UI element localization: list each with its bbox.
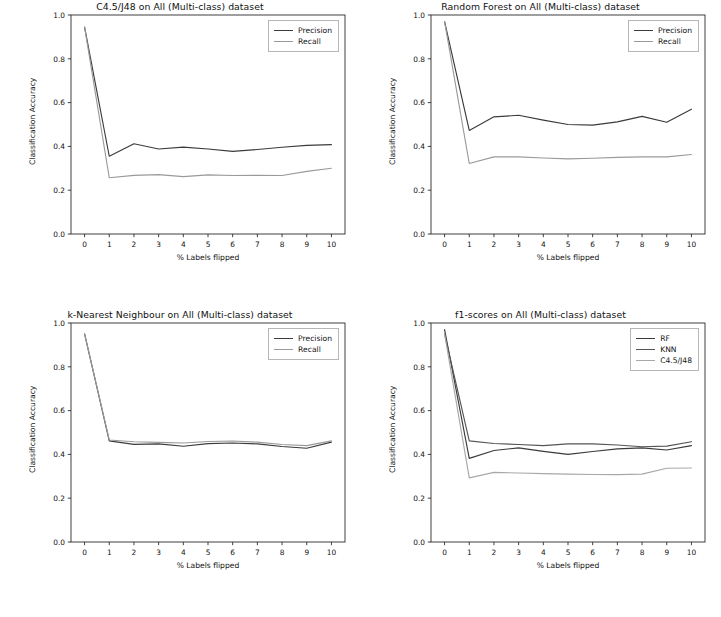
x-tick-label: 2 <box>492 240 497 249</box>
x-tick-label: 3 <box>516 240 521 249</box>
legend-label: Recall <box>658 36 681 47</box>
x-tick-label: 2 <box>132 240 137 249</box>
legend-item[interactable]: C4.5/J48 <box>636 355 692 366</box>
legend-line-icon <box>274 338 293 339</box>
y-axis-label: Classification Accuracy <box>28 77 37 164</box>
legend-line-icon <box>636 360 655 361</box>
y-tick-label: 0.0 <box>53 230 65 239</box>
y-tick-label: 0.8 <box>413 55 425 64</box>
x-tick-label: 9 <box>304 548 309 557</box>
x-axis-label: % Labels flipped <box>71 253 345 262</box>
legend-item[interactable]: Precision <box>274 333 332 344</box>
y-tick-label: 0.6 <box>413 406 425 415</box>
y-tick-label: 0.8 <box>53 363 65 372</box>
legend-line-icon <box>634 41 653 42</box>
x-tick-label: 0 <box>442 548 447 557</box>
y-axis-label: Classification Accuracy <box>388 77 397 164</box>
y-tick-label: 0.8 <box>53 55 65 64</box>
chart-legend[interactable]: PrecisionRecall <box>628 20 699 52</box>
legend-line-icon <box>274 30 293 31</box>
y-axis-label: Classification Accuracy <box>28 385 37 472</box>
x-tick-label: 8 <box>280 240 285 249</box>
x-tick-label: 5 <box>206 240 211 249</box>
legend-line-icon <box>634 30 653 31</box>
legend-line-icon <box>274 41 293 42</box>
x-tick-label: 7 <box>255 240 260 249</box>
legend-line-icon <box>636 349 655 350</box>
chart-panel-random-forest: Random Forest on All (Multi-class) datas… <box>360 0 721 308</box>
chart-panel-f1-scores: f1-scores on All (Multi-class) dataset01… <box>360 308 721 617</box>
legend-item[interactable]: Recall <box>274 36 332 47</box>
y-tick-label: 0.4 <box>413 142 425 151</box>
x-tick-label: 3 <box>516 548 521 557</box>
legend-label: Precision <box>298 25 332 36</box>
x-tick-label: 4 <box>181 548 186 557</box>
legend-label: Precision <box>298 333 332 344</box>
y-tick-label: 0.8 <box>413 363 425 372</box>
x-tick-label: 2 <box>492 548 497 557</box>
x-tick-label: 6 <box>230 240 235 249</box>
x-tick-label: 10 <box>687 548 697 557</box>
legend-label: Recall <box>298 36 321 47</box>
y-tick-label: 0.6 <box>53 98 65 107</box>
x-tick-label: 0 <box>442 240 447 249</box>
x-tick-label: 10 <box>687 240 697 249</box>
y-tick-label: 0.2 <box>53 494 65 503</box>
chart-legend[interactable]: RFKNNC4.5/J48 <box>630 328 699 371</box>
legend-label: C4.5/J48 <box>660 355 692 366</box>
x-tick-label: 9 <box>664 548 669 557</box>
y-tick-label: 0.0 <box>413 538 425 547</box>
x-tick-label: 4 <box>541 548 546 557</box>
y-axis-label: Classification Accuracy <box>388 385 397 472</box>
y-tick-label: 1.0 <box>413 11 425 20</box>
legend-item[interactable]: Recall <box>274 344 332 355</box>
y-tick-label: 0.4 <box>53 450 65 459</box>
x-axis-label: % Labels flipped <box>431 253 705 262</box>
legend-item[interactable]: Recall <box>634 36 692 47</box>
x-tick-label: 6 <box>230 548 235 557</box>
x-tick-label: 10 <box>327 548 337 557</box>
y-tick-label: 0.6 <box>413 98 425 107</box>
x-axis-label: % Labels flipped <box>431 561 705 570</box>
legend-item[interactable]: RF <box>636 333 692 344</box>
chart-legend[interactable]: PrecisionRecall <box>268 328 339 360</box>
y-tick-label: 0.2 <box>53 186 65 195</box>
x-tick-label: 1 <box>107 548 112 557</box>
y-tick-label: 0.4 <box>53 142 65 151</box>
chart-legend[interactable]: PrecisionRecall <box>268 20 339 52</box>
figure-grid: C4.5/J48 on All (Multi-class) dataset012… <box>0 0 721 617</box>
x-tick-label: 6 <box>590 240 595 249</box>
x-tick-label: 7 <box>615 548 620 557</box>
x-axis-label: % Labels flipped <box>71 561 345 570</box>
x-tick-label: 0 <box>82 240 87 249</box>
legend-item[interactable]: KNN <box>636 344 692 355</box>
y-tick-label: 1.0 <box>53 319 65 328</box>
x-tick-label: 7 <box>615 240 620 249</box>
y-tick-label: 0.0 <box>53 538 65 547</box>
y-tick-label: 0.2 <box>413 186 425 195</box>
y-tick-label: 1.0 <box>413 319 425 328</box>
legend-label: RF <box>660 333 670 344</box>
x-tick-label: 4 <box>181 240 186 249</box>
x-tick-label: 7 <box>255 548 260 557</box>
legend-label: Precision <box>658 25 692 36</box>
x-tick-label: 3 <box>156 548 161 557</box>
y-tick-label: 0.2 <box>413 494 425 503</box>
chart-panel-k-nearest-neighbour: k-Nearest Neighbour on All (Multi-class)… <box>0 308 360 617</box>
x-tick-label: 8 <box>280 548 285 557</box>
x-tick-label: 9 <box>664 240 669 249</box>
x-tick-label: 1 <box>467 548 472 557</box>
x-tick-label: 1 <box>467 240 472 249</box>
legend-item[interactable]: Precision <box>634 25 692 36</box>
x-tick-label: 1 <box>107 240 112 249</box>
chart-panel-c45-j48: C4.5/J48 on All (Multi-class) dataset012… <box>0 0 360 308</box>
legend-item[interactable]: Precision <box>274 25 332 36</box>
x-tick-label: 8 <box>640 548 645 557</box>
x-tick-label: 8 <box>640 240 645 249</box>
x-tick-label: 10 <box>327 240 337 249</box>
y-tick-label: 0.4 <box>413 450 425 459</box>
legend-label: KNN <box>660 344 676 355</box>
x-tick-label: 4 <box>541 240 546 249</box>
legend-line-icon <box>274 349 293 350</box>
x-tick-label: 0 <box>82 548 87 557</box>
